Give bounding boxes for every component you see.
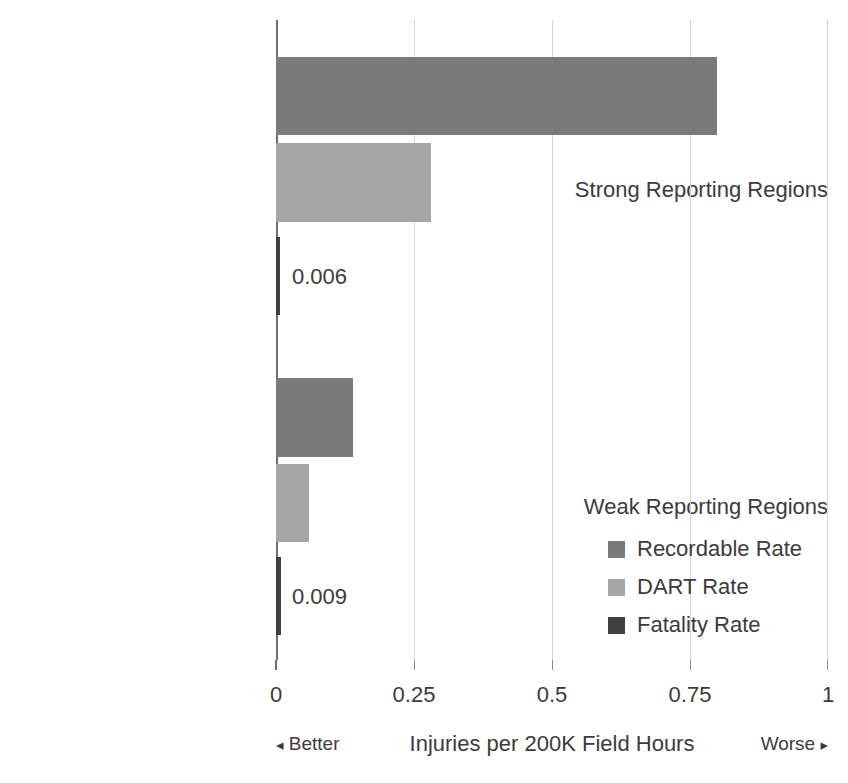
chart-legend: Recordable Rate DART Rate Fatality Rate (608, 530, 802, 644)
gridline-1 (827, 20, 828, 660)
tick-label-0: 0 (270, 684, 282, 706)
tick-label-0-5: 0.5 (537, 684, 568, 706)
legend-swatch-dart-rate-icon (608, 579, 625, 596)
bar-strong-dart-rate (276, 143, 431, 222)
legend-label-recordable-rate: Recordable Rate (637, 538, 802, 560)
legend-item-dart-rate: DART Rate (608, 568, 802, 606)
worse-direction-annotation: Worse ▸ (761, 733, 828, 755)
bar-strong-recordable-rate (276, 57, 717, 135)
bar-value-label-weak-fatality-rate: 0.009 (292, 586, 347, 608)
bar-strong-fatality-rate (276, 237, 280, 315)
tick-mark-0-5 (552, 660, 553, 670)
worse-label: Worse (761, 733, 816, 754)
bar-weak-dart-rate (276, 464, 309, 542)
tick-label-0-75: 0.75 (669, 684, 712, 706)
x-axis-title: Injuries per 200K Field Hours (276, 731, 828, 757)
legend-swatch-recordable-rate-icon (608, 541, 625, 558)
tick-label-1: 1 (822, 684, 834, 706)
axis-title-row: ◂ Better Injuries per 200K Field Hours W… (276, 731, 828, 759)
right-arrow-icon: ▸ (820, 736, 828, 753)
bar-value-label-strong-fatality-rate: 0.006 (292, 266, 347, 288)
bar-weak-recordable-rate (276, 378, 353, 457)
legend-swatch-fatality-rate-icon (608, 617, 625, 634)
tick-label-0-25: 0.25 (393, 684, 436, 706)
plot-area: 0.006 0.009 Recordable Rate DART Rate Fa… (276, 20, 828, 660)
tick-mark-0-25 (414, 660, 415, 670)
bar-weak-fatality-rate (276, 557, 281, 635)
legend-label-fatality-rate: Fatality Rate (637, 614, 761, 636)
horizontal-bar-chart: Strong Reporting Regions Weak Reporting … (0, 0, 848, 783)
tick-mark-1 (827, 660, 828, 670)
tick-mark-0-75 (690, 660, 691, 670)
legend-item-recordable-rate: Recordable Rate (608, 530, 802, 568)
legend-item-fatality-rate: Fatality Rate (608, 606, 802, 644)
tick-mark-0 (275, 660, 277, 670)
legend-label-dart-rate: DART Rate (637, 576, 749, 598)
